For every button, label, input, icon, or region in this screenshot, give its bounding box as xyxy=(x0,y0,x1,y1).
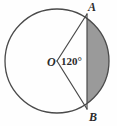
circle-geometry-figure: A B O 120° xyxy=(0,0,117,126)
shaded-segment xyxy=(87,0,117,126)
point-label-b: B xyxy=(89,111,97,123)
angle-label-120: 120° xyxy=(61,56,82,67)
point-label-o: O xyxy=(47,56,56,68)
shaded-segment-group xyxy=(87,0,117,126)
point-label-a: A xyxy=(88,1,96,13)
geometry-canvas xyxy=(0,0,117,126)
